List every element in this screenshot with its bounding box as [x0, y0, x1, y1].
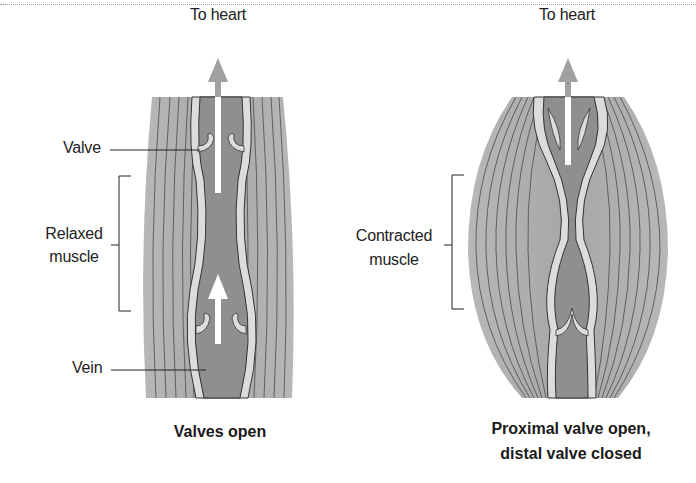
right-to-heart-label: To heart — [535, 6, 599, 24]
vein-label: Vein — [72, 359, 102, 377]
relaxed-muscle-label: muscle — [40, 248, 108, 266]
contracted-muscle-label: muscle — [348, 251, 440, 269]
left-to-heart-label: To heart — [186, 6, 250, 24]
valve-label: Valve — [63, 139, 101, 157]
contracted-label: Contracted — [348, 227, 440, 245]
left-caption: Valves open — [150, 419, 290, 444]
right-leader-lines — [444, 175, 464, 309]
relaxed-label: Relaxed — [40, 225, 108, 243]
right-caption-line2: distal valve closed — [476, 441, 666, 466]
right-caption-line1: Proximal valve open, — [476, 416, 666, 441]
